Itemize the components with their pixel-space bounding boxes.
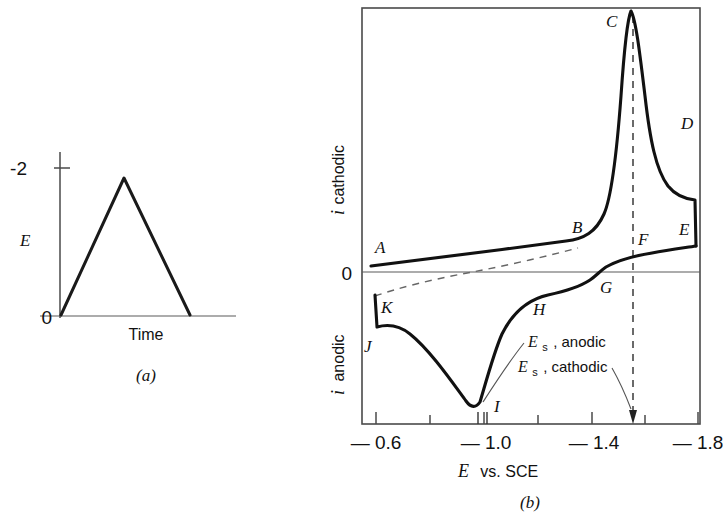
panel-b-annotation-es-anodic: E s , anodic xyxy=(527,333,606,354)
panel-b-point-label-F: F xyxy=(637,230,649,249)
panel-b-x-axis-title: E vs. SCE xyxy=(457,461,538,481)
panel-b-point-label-G: G xyxy=(600,278,612,297)
panel-b-point-label-H: H xyxy=(532,300,547,319)
figure-cyclic-voltammetry: -2 0 E Time (a) — 0.6 — 1.0 — 1. xyxy=(0,0,723,517)
panel-b-point-label-J: J xyxy=(364,337,373,356)
panel-b-annotation-es-anodic-text: , anodic xyxy=(553,333,606,350)
panel-b-point-label-D: D xyxy=(680,114,694,133)
panel-b-annotation-es-cathodic-symbol: E xyxy=(517,358,528,375)
panel-a-x-axis-label: Time xyxy=(129,326,164,343)
panel-a: -2 0 E Time (a) xyxy=(10,152,236,385)
panel-b-xtick-0: — 0.6 xyxy=(351,432,402,453)
panel-b-cathodic-sweep-curve xyxy=(371,11,696,266)
panel-b-annotation-es-cathodic: E s , cathodic xyxy=(517,358,608,379)
panel-b-x-axis-symbol: E xyxy=(457,461,469,481)
panel-a-y-origin-label: 0 xyxy=(41,307,52,328)
panel-b-y-axis-cathodic: i cathodic xyxy=(328,145,348,215)
svg-text:i cathodic: i cathodic xyxy=(328,145,348,215)
panel-b: — 0.6 — 1.0 — 1.4 — 1.8 E vs. SCE 0 i ca… xyxy=(328,8,723,512)
panel-b-annotation-es-cathodic-sub: s xyxy=(532,366,538,378)
svg-text:i anodic: i anodic xyxy=(328,334,348,395)
panel-b-es-cathodic-arrowhead xyxy=(629,410,637,424)
panel-b-point-label-B: B xyxy=(572,218,583,237)
panel-a-y-tick-label: -2 xyxy=(10,158,27,179)
panel-b-y-axis-anodic: i anodic xyxy=(328,334,348,395)
svg-text:E vs. SCE: E vs. SCE xyxy=(457,461,538,481)
panel-b-y-cathodic-symbol: i xyxy=(328,210,348,215)
panel-b-anodic-sweep-curve xyxy=(375,246,696,406)
panel-b-xtick-3: — 1.8 xyxy=(673,432,723,453)
panel-b-annotation-es-anodic-sub: s xyxy=(542,341,548,353)
panel-b-xtick-2: — 1.4 xyxy=(569,432,620,453)
panel-b-point-label-C: C xyxy=(606,12,618,31)
panel-b-point-label-A: A xyxy=(374,238,386,257)
panel-b-y-anodic-text: anodic xyxy=(330,334,347,381)
panel-b-point-label-I: I xyxy=(493,397,501,416)
panel-a-y-axis-label: E xyxy=(19,231,31,250)
panel-b-annotation-es-cathodic-text: , cathodic xyxy=(543,358,608,375)
panel-b-es-anodic-ticks xyxy=(478,412,487,424)
panel-b-zero-label: 0 xyxy=(341,263,352,284)
panel-b-point-label-E: E xyxy=(678,220,690,239)
panel-b-point-label-K: K xyxy=(380,298,394,317)
panel-b-y-cathodic-text: cathodic xyxy=(330,145,347,205)
panel-b-annotation-es-anodic-symbol: E xyxy=(527,333,538,350)
panel-b-x-axis-text: vs. SCE xyxy=(480,463,538,480)
panel-a-caption: (a) xyxy=(136,366,156,385)
panel-b-caption: (b) xyxy=(520,493,540,512)
panel-b-y-anodic-symbol: i xyxy=(328,390,348,395)
panel-b-es-cathodic-leader xyxy=(612,368,631,409)
panel-a-triangle-wave xyxy=(61,178,190,315)
panel-b-xtick-1: — 1.0 xyxy=(461,432,512,453)
panel-b-x-ticks xyxy=(376,412,698,424)
